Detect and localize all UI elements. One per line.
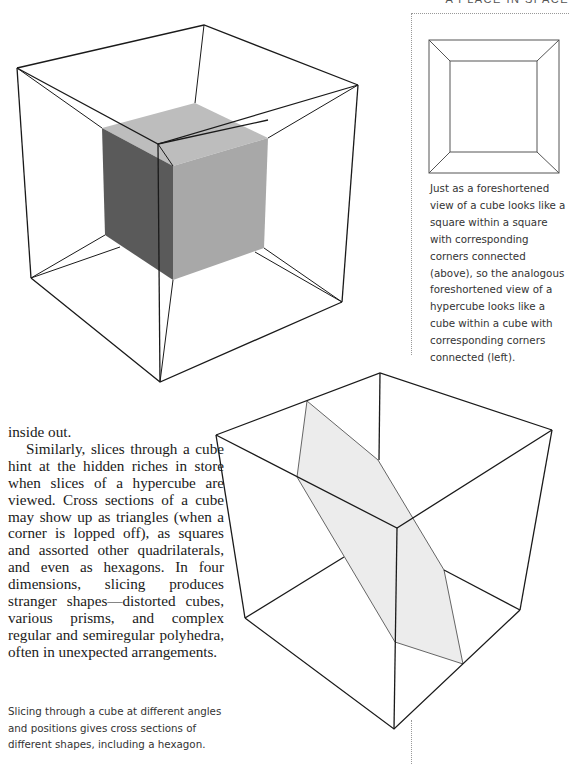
square-within-square-figure: [429, 40, 559, 173]
paragraph-end: inside out.: [8, 424, 224, 441]
body-text: inside out. Similarly, slices through a …: [8, 424, 224, 661]
hexagon-cross-section: [297, 401, 463, 664]
sliced-cube-caption: Slicing through a cube at different angl…: [8, 703, 243, 753]
sliced-cube-figure: [216, 373, 552, 729]
paragraph-slices: Similarly, slices through a cube hint at…: [8, 441, 224, 661]
sidebar-caption: Just as a foreshortened view of a cube l…: [430, 180, 569, 366]
